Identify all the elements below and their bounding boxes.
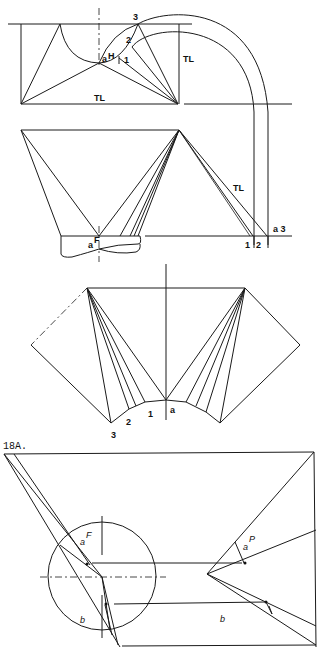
label-pattern-2: 2 [126, 417, 131, 427]
label-base-a3: a 3 [273, 224, 286, 234]
label-point-3: 3 [133, 12, 138, 22]
top-view: 3 2 1 a H TL TL [8, 8, 292, 248]
label-18a-b-right: b [220, 614, 225, 624]
figure-caption: 18A. [3, 441, 27, 452]
label-aF-F: F [94, 235, 100, 245]
label-pattern-3: 3 [111, 430, 116, 440]
label-base-1: 1 [245, 240, 250, 250]
label-point-2: 2 [126, 35, 131, 45]
label-tl-front: TL [233, 183, 244, 193]
front-view: TL a F 1 2 a 3 [21, 130, 292, 262]
label-18a-b-left: b [80, 615, 85, 625]
technical-drawing: 3 2 1 a H TL TL TL a [0, 0, 326, 647]
label-pattern-1: 1 [148, 409, 153, 419]
pattern-development: 3 2 1 a [31, 264, 300, 440]
label-18a-aF-F: F [86, 530, 92, 540]
label-tl-vertical: TL [183, 54, 194, 64]
label-18a-aF-a: a [80, 537, 85, 547]
label-aH-H: H [108, 51, 115, 61]
label-base-2: 2 [256, 240, 261, 250]
label-pattern-a: a [170, 405, 176, 415]
label-tl-horizontal: TL [94, 93, 105, 103]
label-18a-aP-a: a [243, 542, 248, 552]
label-point-1: 1 [124, 55, 129, 65]
label-18a-aP-P: P [249, 534, 255, 544]
detail-18A: a F b a P b [4, 452, 316, 647]
